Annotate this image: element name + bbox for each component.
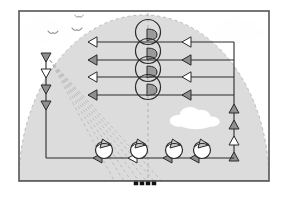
diagram-canvas [0, 0, 288, 197]
cloud-lobe [179, 117, 213, 129]
cloud-lobe [26, 28, 66, 42]
cloud-lobe [221, 28, 259, 41]
schematic-diagram [0, 0, 288, 197]
